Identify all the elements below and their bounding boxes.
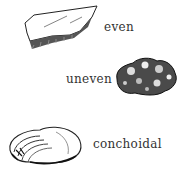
rough-rock-icon <box>113 55 179 97</box>
label-conchoidal: conchoidal <box>93 137 162 151</box>
fracture-diagram: even uneven conchoidal <box>0 0 195 180</box>
label-uneven: uneven <box>66 72 112 86</box>
shell-fracture-icon <box>6 122 84 166</box>
flat-stone-icon <box>22 5 100 50</box>
label-even: even <box>104 20 134 34</box>
